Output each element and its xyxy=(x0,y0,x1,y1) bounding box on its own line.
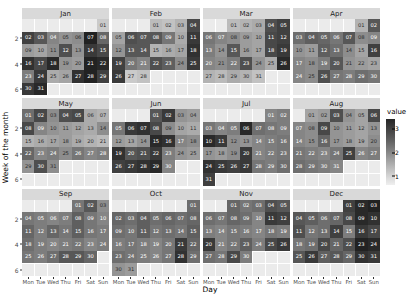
day-cell-empty xyxy=(150,70,162,83)
day-cell: 31 xyxy=(34,83,46,96)
day-cell: 10 xyxy=(293,44,305,57)
x-axis-ticks: MonTueWedThuFriSatSunMonTueWedThuFriSatS… xyxy=(22,277,380,285)
day-cell: 22 xyxy=(22,147,34,160)
day-cell: 30 xyxy=(84,251,96,264)
facet-panel: 0102030405060708091011121314151617181920… xyxy=(112,200,199,276)
day-cell: 12 xyxy=(318,44,330,57)
x-tick-group: MonTueWedThuFriSatSun xyxy=(22,277,109,285)
day-cell: 19 xyxy=(277,44,289,57)
x-axis-title: Day xyxy=(0,285,420,294)
x-tick: Sat xyxy=(175,277,187,285)
day-cell: 19 xyxy=(112,57,124,70)
day-cell: 04 xyxy=(215,122,227,135)
day-cell-empty xyxy=(293,19,305,32)
day-cell: 03 xyxy=(47,109,59,122)
facet-aug: Aug0102030405060708091011121314151617181… xyxy=(293,98,380,185)
facet-strip-label: Feb xyxy=(112,8,199,19)
facet-panel: 0102030405060708091011121314151617181920… xyxy=(293,109,380,185)
day-cell: 27 xyxy=(125,70,137,83)
day-cell-empty xyxy=(125,109,137,122)
day-cell: 06 xyxy=(84,109,96,122)
day-cell-empty xyxy=(330,200,342,213)
facet-panel: 0102030405060708091011121314151617181920… xyxy=(112,109,199,185)
day-cell: 24 xyxy=(252,57,264,70)
day-cell: 20 xyxy=(240,147,252,160)
day-cell: 22 xyxy=(227,238,239,251)
day-cell: 23 xyxy=(318,147,330,160)
day-cell: 06 xyxy=(203,32,215,45)
day-cell: 05 xyxy=(59,32,71,45)
day-cell: 23 xyxy=(277,147,289,160)
day-cell-empty xyxy=(305,200,317,213)
y-tick-label: 4 xyxy=(15,241,22,248)
day-cell: 16 xyxy=(318,135,330,148)
day-cell: 01 xyxy=(265,109,277,122)
day-cell: 07 xyxy=(293,122,305,135)
day-cell: 18 xyxy=(265,44,277,57)
day-cell: 28 xyxy=(330,251,342,264)
day-cell-empty xyxy=(150,83,162,96)
day-cell: 14 xyxy=(252,135,264,148)
day-cell: 19 xyxy=(150,238,162,251)
day-cell: 04 xyxy=(293,212,305,225)
day-cell: 07 xyxy=(252,122,264,135)
day-cell: 27 xyxy=(318,251,330,264)
day-cell: 17 xyxy=(34,57,46,70)
day-cell: 01 xyxy=(355,19,367,32)
day-cell: 05 xyxy=(72,109,84,122)
day-cell: 17 xyxy=(252,225,264,238)
day-cell-empty xyxy=(265,83,277,96)
day-cell-empty xyxy=(215,109,227,122)
day-cell: 21 xyxy=(343,57,355,70)
day-cell: 05 xyxy=(150,212,162,225)
day-cell: 28 xyxy=(343,70,355,83)
x-tick-group: MonTueWedThuFriSatSun xyxy=(203,277,290,285)
day-grid: 0102030405060708091011121314151617181920… xyxy=(22,109,109,185)
x-tick: Sun xyxy=(187,277,199,285)
day-cell: 26 xyxy=(305,251,317,264)
day-cell: 01 xyxy=(305,109,317,122)
day-cell: 16 xyxy=(34,135,46,148)
day-cell: 19 xyxy=(305,238,317,251)
day-cell: 08 xyxy=(355,32,367,45)
day-cell-empty xyxy=(59,200,71,213)
facet-oct: Oct0102030405060708091011121314151617181… xyxy=(112,189,199,276)
day-cell: 20 xyxy=(368,135,380,148)
day-cell-empty xyxy=(293,263,305,276)
facet-panel: 0102030405060708091011121314151617181920… xyxy=(203,109,290,185)
day-cell-empty xyxy=(277,263,289,276)
day-cell: 09 xyxy=(112,225,124,238)
day-cell: 31 xyxy=(125,263,137,276)
day-cell-empty xyxy=(265,173,277,186)
day-cell: 17 xyxy=(47,135,59,148)
day-cell: 24 xyxy=(330,147,342,160)
day-cell-empty xyxy=(175,160,187,173)
day-cell: 30 xyxy=(162,160,174,173)
day-cell: 02 xyxy=(162,109,174,122)
day-cell-empty xyxy=(240,173,252,186)
facet-panel: 0102030405060708091011121314151617181920… xyxy=(112,19,199,95)
y-tick-label: 4 xyxy=(15,60,22,67)
day-cell-empty xyxy=(112,19,124,32)
day-cell: 18 xyxy=(59,135,71,148)
day-cell: 04 xyxy=(187,19,199,32)
day-cell: 08 xyxy=(72,212,84,225)
day-cell-empty xyxy=(355,263,367,276)
day-cell: 16 xyxy=(368,44,380,57)
day-cell: 25 xyxy=(22,251,34,264)
day-grid: 0102030405060708091011121314151617181920… xyxy=(203,19,290,95)
day-cell-empty xyxy=(47,263,59,276)
day-cell: 20 xyxy=(162,238,174,251)
day-cell: 08 xyxy=(150,122,162,135)
facet-feb: Feb0102030405060708091011121314151617181… xyxy=(112,8,199,95)
day-cell: 23 xyxy=(368,57,380,70)
day-cell-empty xyxy=(343,19,355,32)
day-cell: 30 xyxy=(240,70,252,83)
day-cell: 04 xyxy=(137,212,149,225)
day-cell-empty xyxy=(59,83,71,96)
day-cell: 08 xyxy=(227,32,239,45)
day-cell: 20 xyxy=(125,57,137,70)
facet-strip-label: Nov xyxy=(203,189,290,200)
day-cell: 03 xyxy=(252,19,264,32)
day-cell-empty xyxy=(72,19,84,32)
